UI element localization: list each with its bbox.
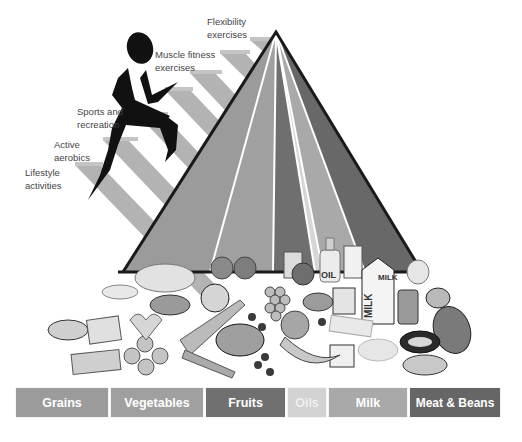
food-group-fruits: Fruits bbox=[206, 388, 285, 417]
label-line: Active bbox=[54, 139, 90, 152]
cereal-bowl bbox=[48, 320, 88, 340]
roll bbox=[138, 359, 154, 375]
label-active-aerobics: Active aerobics bbox=[54, 139, 90, 164]
heart-bread bbox=[130, 314, 162, 340]
pyramid-illustration: OIL MILK MILK bbox=[0, 0, 522, 442]
orange bbox=[292, 263, 314, 285]
label-line: activities bbox=[25, 180, 61, 193]
tomato-half bbox=[234, 257, 256, 279]
nuts bbox=[426, 288, 450, 308]
milk-carton-top-label: MILK bbox=[378, 273, 398, 282]
cabbage bbox=[201, 284, 229, 312]
label-lifestyle-activities: Lifestyle activities bbox=[25, 167, 61, 192]
oil-bottle-label: OIL bbox=[321, 270, 337, 280]
food-group-milk: Milk bbox=[329, 388, 407, 417]
food-pyramid-diagram: OIL MILK MILK bbox=[0, 0, 522, 442]
bread-loaf bbox=[135, 264, 195, 292]
label-flexibility-exercises: Flexibility exercises bbox=[207, 16, 247, 41]
cheese bbox=[358, 339, 398, 361]
egg bbox=[407, 260, 429, 284]
roll bbox=[124, 348, 140, 364]
label-line: exercises bbox=[155, 62, 215, 75]
label-line: recreation bbox=[77, 119, 123, 132]
label-muscle-fitness-exercises: Muscle fitness exercises bbox=[155, 49, 215, 74]
cantaloupe bbox=[303, 293, 333, 311]
tomato bbox=[211, 257, 233, 279]
label-line: exercises bbox=[207, 29, 247, 42]
roll bbox=[152, 348, 168, 364]
crackers bbox=[71, 350, 121, 375]
yogurt-cup bbox=[333, 288, 355, 314]
label-line: aerobics bbox=[54, 152, 90, 165]
milk-glass bbox=[344, 246, 362, 278]
milk-box bbox=[330, 345, 354, 367]
label-line: Sports and bbox=[77, 106, 123, 119]
chicken bbox=[216, 324, 264, 356]
label-line: Lifestyle bbox=[25, 167, 61, 180]
label-sports-and-recreation: Sports and recreation bbox=[77, 106, 123, 131]
peach bbox=[281, 311, 309, 339]
carrots bbox=[182, 350, 235, 378]
label-line: Muscle fitness bbox=[155, 49, 215, 62]
bread-slices bbox=[102, 285, 138, 299]
peanut-butter-jar bbox=[398, 290, 418, 324]
food-group-grains: Grains bbox=[16, 388, 108, 417]
food-group-meat-and-beans: Meat & Beans bbox=[410, 388, 500, 417]
food-group-oils: Oils bbox=[288, 388, 326, 417]
soup-bowl bbox=[150, 295, 190, 315]
milk-carton-side-label: MILK bbox=[363, 293, 374, 318]
bread-block bbox=[86, 316, 121, 344]
label-line: Flexibility bbox=[207, 16, 247, 29]
fish-steak bbox=[403, 355, 447, 375]
food-group-vegetables: Vegetables bbox=[111, 388, 203, 417]
